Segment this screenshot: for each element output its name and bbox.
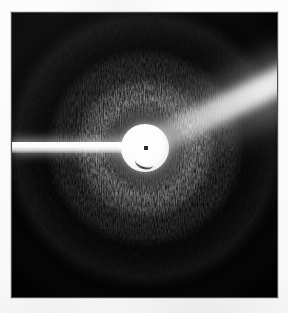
beam-center-marker	[144, 146, 148, 150]
diffraction-figure: X-ray diffraction pattern Grayscale X-ra…	[0, 0, 288, 313]
detector-image	[12, 13, 277, 297]
